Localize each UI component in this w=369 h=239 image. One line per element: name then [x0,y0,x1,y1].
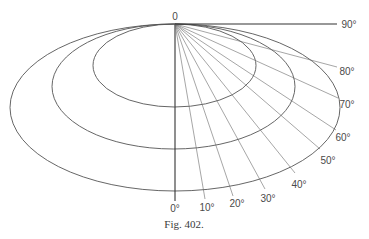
ellipse-middle [52,24,295,149]
ray-10-deg [175,24,205,199]
angle-label: 40° [291,179,306,190]
ray-50-deg [175,24,320,149]
ray-20-deg [175,24,233,196]
angle-label-group: 0°10°20°30°40°50°60°70°80°90° [170,19,356,214]
ray-40-deg [175,24,295,173]
angle-label: 60° [335,132,350,143]
angle-label: 30° [260,193,275,204]
angle-label: 70° [339,99,354,110]
angle-label: 0° [170,203,180,214]
ray-group [175,24,338,201]
origin-label: 0 [172,11,178,22]
angle-label: 80° [339,66,354,77]
angle-label: 50° [320,155,335,166]
polar-diagram: 0°10°20°30°40°50°60°70°80°90° 0 Fig. 402… [0,0,369,239]
angle-label: 90° [341,19,356,30]
angle-label: 10° [199,202,214,213]
figure-caption: Fig. 402. [164,218,204,230]
angle-label: 20° [229,198,244,209]
